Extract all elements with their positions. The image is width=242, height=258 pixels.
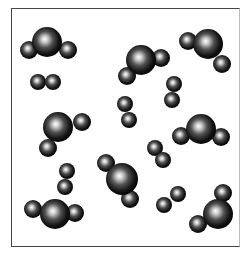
triatomic-molecule (20, 27, 77, 59)
small-atom (164, 92, 180, 108)
small-atom (170, 186, 186, 202)
small-atom (213, 55, 231, 73)
triatomic-molecule (39, 112, 91, 157)
large-atom (106, 163, 138, 195)
diatomic-molecule (164, 76, 182, 108)
small-atom (57, 179, 73, 195)
small-atom (117, 96, 133, 112)
diatomic-molecule (147, 140, 171, 168)
diatomic-molecule (117, 96, 137, 128)
small-atom (121, 112, 137, 128)
triatomic-molecule (179, 29, 231, 73)
small-atom (45, 74, 61, 90)
triatomic-molecule (97, 154, 139, 208)
small-atom (24, 200, 42, 218)
large-atom (32, 27, 62, 57)
triatomic-molecule (172, 114, 230, 146)
small-atom (166, 76, 182, 92)
triatomic-molecule (189, 184, 233, 233)
large-atom (40, 199, 70, 229)
diatomic-molecule (30, 74, 61, 90)
triatomic-molecule (24, 199, 84, 229)
diatomic-molecule (57, 163, 75, 195)
large-atom (43, 112, 73, 142)
large-atom (126, 45, 156, 75)
small-atom (59, 163, 75, 179)
large-atom (186, 114, 216, 144)
small-atom (39, 139, 57, 157)
triatomic-molecule (118, 45, 170, 85)
molecule-diagram (0, 0, 242, 258)
molecules-group (20, 27, 233, 233)
small-atom (156, 197, 172, 213)
large-atom (193, 29, 223, 59)
diatomic-molecule (156, 186, 186, 213)
small-atom (73, 113, 91, 131)
large-atom (203, 199, 233, 229)
small-atom (30, 74, 46, 90)
small-atom (155, 152, 171, 168)
